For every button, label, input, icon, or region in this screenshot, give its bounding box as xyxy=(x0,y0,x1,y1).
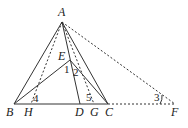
label-E: E xyxy=(57,49,66,63)
angle-5-label: 5 xyxy=(86,91,92,103)
label-F: F xyxy=(170,105,179,119)
angle-4-label: 4 xyxy=(33,92,39,104)
angle-1-label: 1 xyxy=(64,63,70,75)
label-G: G xyxy=(90,105,99,119)
geometry-diagram: A B H D G C F E 1 2 3 4 5 xyxy=(0,0,188,128)
angle-3-label: 3 xyxy=(154,91,160,103)
label-B: B xyxy=(6,105,14,119)
label-D: D xyxy=(74,105,84,119)
angle-2-label: 2 xyxy=(73,66,79,78)
angle-3-arc xyxy=(160,95,162,104)
segment-BE xyxy=(14,60,70,104)
label-A: A xyxy=(57,5,66,19)
label-C: C xyxy=(105,105,114,119)
label-H: H xyxy=(23,105,34,119)
